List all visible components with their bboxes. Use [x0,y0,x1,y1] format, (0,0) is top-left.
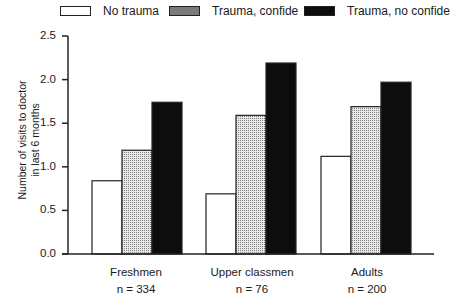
bar-no-trauma [92,181,122,254]
group-n-label: n = 200 [307,283,427,295]
y-ticks [62,36,68,254]
bar-trauma-confide [122,150,152,254]
bar-trauma-confide [351,107,381,254]
bar-trauma-no-confide [266,63,296,254]
bar-trauma-confide [236,115,266,254]
group-label: Freshmen [76,266,196,278]
group-n-label: n = 334 [76,283,196,295]
bar-trauma-no-confide [381,82,411,254]
group-label: Upper classmen [192,266,312,278]
bars [92,63,411,254]
bar-no-trauma [206,194,236,254]
bar-no-trauma [321,156,351,254]
group-label: Adults [307,266,427,278]
group-n-label: n = 76 [192,283,312,295]
bar-trauma-no-confide [152,102,182,254]
